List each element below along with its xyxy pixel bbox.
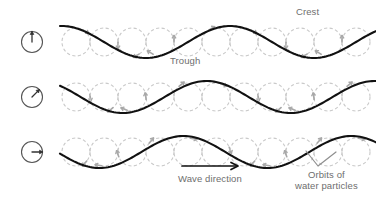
- orbit-circle-group-2: [62, 82, 370, 112]
- orbits-label: Orbits of water particles: [295, 169, 358, 191]
- phase-indicator-diagonal: [22, 87, 43, 108]
- phase-indicator-up: [22, 32, 43, 53]
- wave-direction-label: Wave direction: [178, 173, 242, 184]
- wave-row-1: [60, 26, 376, 58]
- orbit-circle: [342, 83, 370, 111]
- orbit-circle-group-3: [62, 137, 370, 167]
- wave-direction-arrow: [182, 162, 238, 169]
- trough-label: Trough: [170, 55, 200, 66]
- orbit-circle: [90, 138, 118, 166]
- wave-row-2: [60, 81, 376, 113]
- orbit-circle: [146, 83, 174, 111]
- orbits-label-line1: Orbits of: [308, 169, 345, 180]
- orbit-circle: [342, 138, 370, 166]
- orbit-circle: [258, 138, 286, 166]
- orbit-circle: [90, 83, 118, 111]
- orbits-leader-lines: [306, 151, 336, 166]
- orbit-circle: [174, 138, 202, 166]
- orbit-circle: [314, 83, 342, 111]
- orbit-circle: [230, 83, 258, 111]
- orbit-circle: [174, 83, 202, 111]
- phase-indicator-right: [22, 142, 43, 163]
- orbits-leader-line: [306, 151, 336, 166]
- orbit-circle: [118, 83, 146, 111]
- wave-curve-2: [60, 81, 376, 113]
- wave-curve-1: [60, 26, 376, 58]
- orbit-circle: [286, 83, 314, 111]
- orbit-circle: [62, 83, 90, 111]
- wave-row-3: [60, 136, 376, 168]
- orbits-label-line2: water particles: [295, 180, 358, 191]
- wave-curve-3: [60, 136, 376, 168]
- orbit-circle: [202, 83, 230, 111]
- orbit-circle: [258, 83, 286, 111]
- crest-label: Crest: [296, 6, 319, 17]
- orbit-circle-group-1: [62, 26, 370, 57]
